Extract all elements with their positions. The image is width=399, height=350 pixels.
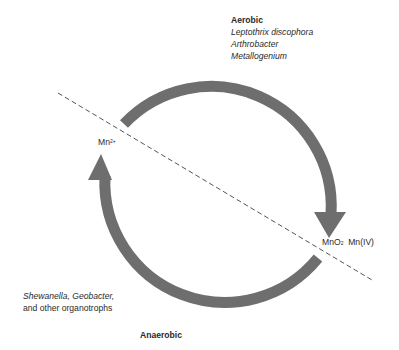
anaerobic-organisms-line2: and other organotrophs [23, 302, 114, 314]
oxidized-species-subscript: 2 [341, 240, 344, 246]
aerobic-label-group: Aerobic Leptothrix discophora Arthrobact… [231, 14, 313, 62]
aerobic-organism: Arthrobacter [231, 38, 313, 50]
anaerobic-organisms-group: Shewanella, Geobacter, and other organot… [23, 290, 114, 314]
oxidation-arrowhead-icon [314, 212, 346, 238]
aerobic-organism: Metallogenium [231, 50, 313, 62]
aerobic-heading: Aerobic [231, 14, 313, 26]
anaerobic-organisms-line1: Shewanella, Geobacter, [23, 290, 114, 302]
oxidation-arrow-arc [124, 86, 331, 214]
oxidized-species-state: Mn(IV) [348, 237, 374, 247]
reduction-arrow-arc [105, 176, 318, 302]
reduced-species-symbol: Mn [98, 137, 110, 147]
aerobic-organism: Leptothrix discophora [231, 26, 313, 38]
reduced-species-label: Mn2+ [98, 136, 116, 148]
oxidized-species-formula: MnO [322, 237, 341, 247]
anaerobic-heading: Anaerobic [140, 329, 182, 341]
oxidized-species-label: MnO2 Mn(IV) [322, 236, 374, 248]
reduction-arrowhead-icon [88, 154, 112, 180]
reduced-species-charge: 2+ [110, 138, 116, 144]
